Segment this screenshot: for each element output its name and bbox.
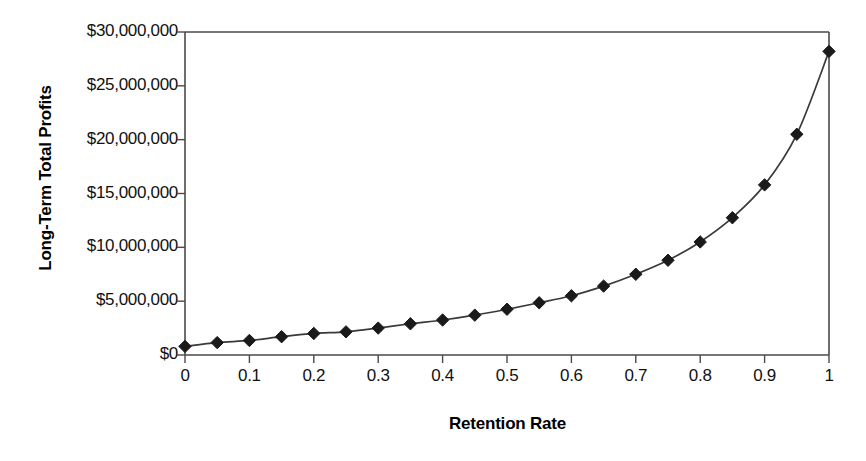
data-point-marker <box>533 297 545 309</box>
y-axis-tick-marks <box>177 32 185 355</box>
plot-area <box>0 0 866 461</box>
data-point-marker <box>340 326 352 338</box>
data-series-line <box>185 51 829 346</box>
data-point-marker <box>694 236 706 248</box>
data-point-marker <box>436 314 448 326</box>
data-point-marker <box>308 327 320 339</box>
data-point-marker <box>211 336 223 348</box>
data-point-marker <box>372 322 384 334</box>
data-point-marker <box>791 128 803 140</box>
x-axis-tick-marks <box>185 355 829 363</box>
data-point-marker <box>469 309 481 321</box>
data-point-marker <box>404 318 416 330</box>
chart-figure: Long-Term Total Profits Retention Rate $… <box>0 0 866 461</box>
data-point-marker <box>565 290 577 302</box>
data-point-marker <box>501 303 513 315</box>
data-point-marker <box>179 340 191 352</box>
data-point-marker <box>630 268 642 280</box>
data-point-marker <box>597 280 609 292</box>
data-series-markers <box>179 45 835 352</box>
data-point-marker <box>275 330 287 342</box>
data-point-marker <box>662 254 674 266</box>
data-point-marker <box>243 334 255 346</box>
data-point-marker <box>823 45 835 57</box>
